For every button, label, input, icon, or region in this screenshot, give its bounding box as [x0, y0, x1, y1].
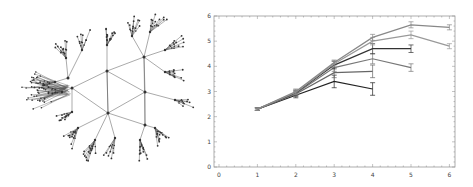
x-tick-label: 2	[294, 171, 298, 178]
y-tick-label: 5	[207, 37, 211, 44]
y-tick-label: 2	[207, 113, 211, 120]
y-tick-label: 1	[207, 138, 211, 145]
y-tick-label: 4	[207, 62, 211, 69]
y-tick-label: 6	[207, 12, 211, 19]
x-tick-label: 4	[371, 171, 375, 178]
chart-plot-area: 01234560123456	[200, 0, 473, 187]
x-tick-label: 1	[255, 171, 259, 178]
network-graph	[0, 0, 200, 187]
y-tick-label: 3	[207, 88, 211, 95]
y-tick-label: 0	[207, 163, 211, 170]
x-tick-label: 5	[409, 171, 413, 178]
plot-frame	[214, 16, 455, 167]
x-tick-label: 6	[447, 171, 451, 178]
line-chart: 01234560123456	[200, 0, 473, 187]
series-line-s1	[257, 81, 372, 109]
x-tick-label: 3	[332, 171, 336, 178]
network-diagram	[0, 0, 200, 187]
x-tick-label: 0	[217, 171, 221, 178]
network-nodes	[21, 13, 194, 161]
